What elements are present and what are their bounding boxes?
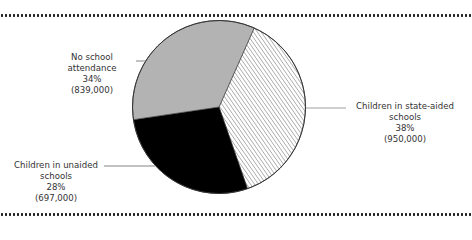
label-count: (697,000) [8,193,104,204]
slice-label-state-aided: Children in state-aided schools 38% (950… [338,101,472,145]
label-text-2: schools [338,112,472,123]
label-percent: 38% [338,123,472,134]
label-percent: 28% [8,182,104,193]
label-count: (950,000) [338,134,472,145]
label-text: Children in unaided [8,160,104,171]
slice-label-unaided: Children in unaided schools 28% (697,000… [8,160,104,204]
label-text: Children in state-aided [338,101,472,112]
label-text-2: schools [8,171,104,182]
slice-label-no-school: No school attendance 34% (839,000) [52,52,132,96]
label-count: (839,000) [52,85,132,96]
label-percent: 34% [52,74,132,85]
label-text: No school attendance [52,52,132,74]
